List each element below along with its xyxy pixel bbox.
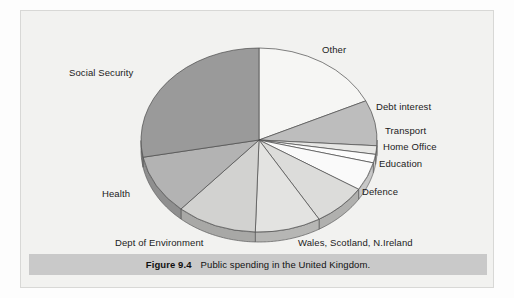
figure-caption-label: Figure 9.4: [146, 259, 192, 270]
pie-label-health: Health: [102, 189, 130, 199]
pie-slices-group: [141, 48, 377, 242]
pie-label-defence: Defence: [362, 187, 398, 197]
pie-label-social-security: Social Security: [69, 68, 133, 78]
pie-label-education: Education: [379, 159, 422, 169]
pie-label-transport: Transport: [385, 126, 426, 136]
pie-label-debt-interest: Debt interest: [376, 102, 431, 112]
pie-label-wales-scotland-nireland: Wales, Scotland, N.Ireland: [298, 238, 413, 248]
figure-panel: Social Security Other Debt interest Tran…: [20, 10, 494, 288]
figure-caption-bar: Figure 9.4Public spending in the United …: [29, 254, 487, 275]
pie-slice-social-security[interactable]: [141, 48, 259, 157]
figure-caption-text: Public spending in the United Kingdom.: [201, 259, 371, 270]
pie-label-home-office: Home Office: [383, 142, 437, 152]
figure-caption: Figure 9.4Public spending in the United …: [146, 259, 371, 270]
pie-chart: Social Security Other Debt interest Tran…: [21, 11, 494, 255]
pie-label-dept-of-environment: Dept of Environment: [115, 238, 204, 248]
pie-label-other: Other: [322, 45, 346, 55]
